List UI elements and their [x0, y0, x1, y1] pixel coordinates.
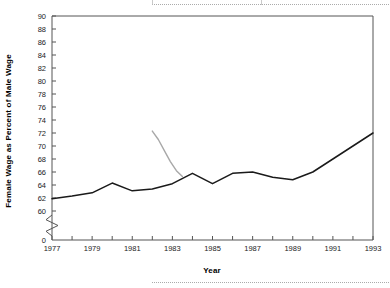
y-axis-tick-label: 68: [38, 155, 46, 164]
data-series-group: [52, 131, 373, 199]
x-axis-tick-label: 1977: [44, 244, 61, 253]
y-axis-tick-labels: 60626466687072747678808284868890: [38, 12, 46, 216]
x-axis-tick-label: 1993: [365, 244, 382, 253]
y-axis-tick-label: 82: [38, 64, 46, 73]
x-axis-title: Year: [203, 266, 221, 275]
x-axis-tick-label: 1989: [284, 244, 301, 253]
y-axis-tick-label: 70: [38, 142, 46, 151]
y-axis-tick-label: 78: [38, 90, 46, 99]
plot-frame: [52, 16, 373, 240]
x-axis-tick-label: 1987: [244, 244, 261, 253]
chart-page: 60626466687072747678808284868890 1977197…: [0, 0, 390, 288]
x-axis-tick-labels: 197719791981198319851987198919911993: [44, 244, 382, 253]
y-axis-tick-label: 88: [38, 25, 46, 34]
y-axis-tick-label: 76: [38, 103, 46, 112]
y-axis-tick-label: 64: [38, 181, 46, 190]
line-chart: 60626466687072747678808284868890 1977197…: [0, 0, 390, 288]
y-axis-tick-label: 84: [38, 51, 46, 60]
series-line-secondary-series: [152, 131, 182, 177]
x-axis-ticks: [52, 236, 373, 240]
y-axis-tick-label: 66: [38, 168, 46, 177]
x-axis-tick-label: 1991: [325, 244, 342, 253]
x-axis-tick-label: 1981: [124, 244, 141, 253]
x-axis-tick-label: 1983: [164, 244, 181, 253]
y-axis-tick-label: 80: [38, 77, 46, 86]
y-axis-tick-label: 72: [38, 129, 46, 138]
y-axis-tick-label: 74: [38, 116, 46, 125]
y-axis-tick-label: 90: [38, 12, 46, 21]
y-axis-zero-label: 0: [42, 236, 46, 245]
y-axis-tick-label: 62: [38, 194, 46, 203]
series-line-primary-series: [52, 133, 373, 199]
y-axis-ticks: [52, 16, 56, 211]
y-axis-title: Female Wage as Percent of Male Wage: [4, 54, 13, 208]
y-axis-tick-label: 60: [38, 207, 46, 216]
y-axis-tick-label: 86: [38, 38, 46, 47]
x-axis-tick-label: 1979: [84, 244, 101, 253]
x-axis-tick-label: 1985: [204, 244, 221, 253]
